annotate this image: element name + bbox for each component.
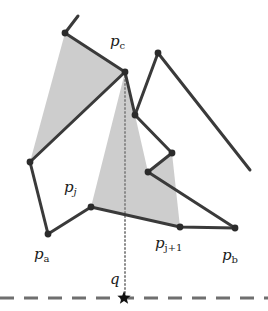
label-pj1-subscript: j+1 [165, 242, 183, 253]
label-pa-base: p [34, 245, 44, 263]
label-pj: pj [64, 180, 77, 197]
vertex-pj1 [177, 224, 184, 231]
chain-right-zigzag [125, 53, 250, 170]
query-point-star [117, 291, 130, 304]
label-pb-base: p [222, 246, 232, 264]
label-pc-base: p [110, 32, 120, 50]
label-pc-subscript: c [120, 40, 126, 51]
geometry-figure: pcpjpj+1papbq [0, 0, 268, 311]
label-pj-base: p [64, 178, 74, 196]
shaded-regions-group [30, 33, 180, 227]
vertex-chain-top [62, 30, 69, 37]
vertex-zigzag-b [169, 150, 176, 157]
vertex-pa [45, 231, 52, 238]
query-point-group [117, 291, 130, 304]
label-pb-subscript: b [232, 254, 238, 265]
label-q-base: q [110, 270, 120, 288]
vertex-pc [122, 69, 129, 76]
vertex-pj [88, 204, 95, 211]
vertex-zigzag-a [132, 112, 139, 119]
label-pa: pa [34, 247, 50, 264]
label-pj-subscript: j [74, 186, 77, 197]
label-pj1: pj+1 [155, 236, 182, 253]
vertex-left-mid [27, 159, 34, 166]
label-pj1-base: p [155, 234, 165, 252]
vertex-pb [232, 225, 239, 232]
label-pb: pb [222, 248, 238, 265]
label-pa-subscript: a [44, 253, 50, 264]
label-pc: pc [110, 34, 125, 51]
vertex-right-peak [155, 50, 162, 57]
label-q: q [110, 272, 120, 287]
vertex-zigzag-c [145, 169, 152, 176]
